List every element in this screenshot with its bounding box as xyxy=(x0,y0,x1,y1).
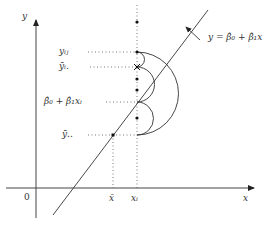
arc-yij-to-ybari xyxy=(137,52,144,67)
data-point xyxy=(135,20,138,23)
x-axis-label: x xyxy=(243,194,248,203)
data-point xyxy=(135,116,138,119)
y-ij-label: yᵢⱼ xyxy=(59,47,68,56)
line-label-pointer xyxy=(186,27,200,40)
y-bar-bar-label: ȳ.. xyxy=(62,130,73,139)
x-bar-label: x̄ xyxy=(109,194,114,203)
fitted-value-label: β̂₀ + β̂₁xᵢ xyxy=(44,97,82,106)
grand-mean-point xyxy=(112,134,115,137)
y-bar-i-label: ȳᵢ. xyxy=(59,62,69,71)
arc-fitted-to-ybarbar xyxy=(137,102,153,135)
data-point-yij xyxy=(135,50,138,53)
regression-line-label: y = β̂₀ + β̂₁x xyxy=(208,33,262,42)
x-i-label: xᵢ xyxy=(131,194,138,203)
data-point xyxy=(135,88,138,91)
arc-yij-to-ybarbar xyxy=(137,52,179,135)
y-axis-label: y xyxy=(22,12,27,21)
data-point xyxy=(135,77,138,80)
origin-label: 0 xyxy=(24,193,30,202)
regression-line xyxy=(53,10,208,215)
